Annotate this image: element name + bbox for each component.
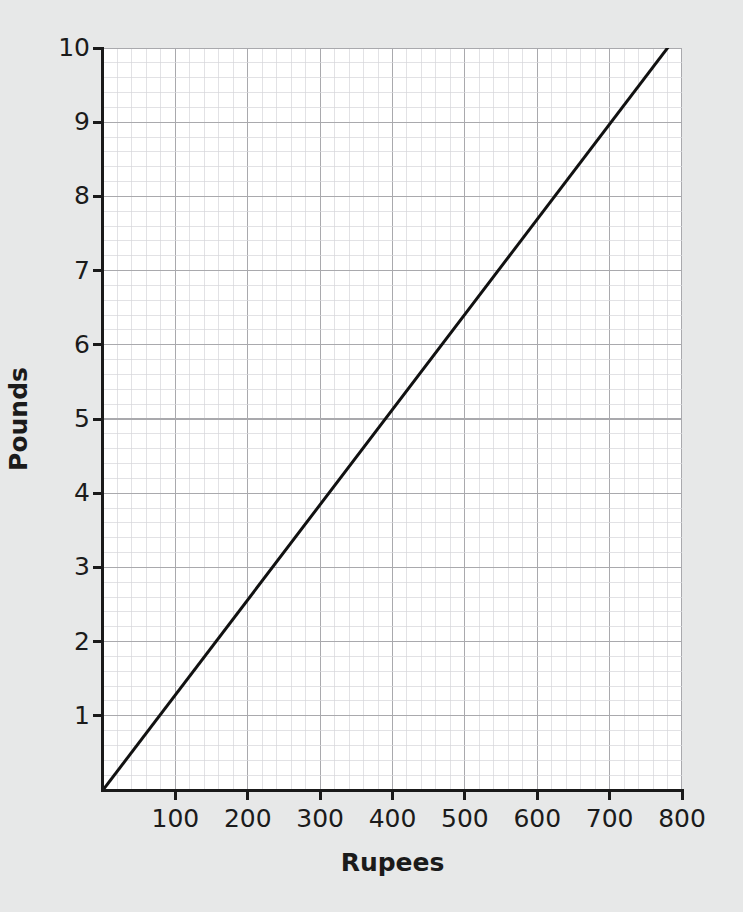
y-tick-label-9: 9	[44, 109, 90, 134]
y-tick-3	[93, 566, 102, 569]
x-tick-100	[174, 791, 177, 800]
y-tick-4	[93, 492, 102, 495]
x-axis-title: Rupees	[103, 848, 682, 877]
y-tick-label-4: 4	[44, 480, 90, 505]
x-tick-500	[463, 791, 466, 800]
y-tick-label-5: 5	[44, 406, 90, 431]
y-tick-label-7: 7	[44, 258, 90, 283]
y-tick-label-10: 10	[44, 35, 90, 60]
x-tick-400	[391, 791, 394, 800]
y-tick-7	[93, 269, 102, 272]
chart-canvas: 12345678910 100200300400500600700800 Rup…	[0, 0, 743, 912]
x-tick-300	[319, 791, 322, 800]
data-line-series	[103, 48, 682, 790]
plot-area	[103, 48, 682, 790]
y-tick-label-3: 3	[44, 554, 90, 579]
x-tick-label-800: 800	[637, 806, 727, 831]
y-tick-label-1: 1	[44, 703, 90, 728]
y-tick-label-8: 8	[44, 183, 90, 208]
y-tick-2	[93, 640, 102, 643]
y-tick-label-2: 2	[44, 629, 90, 654]
x-tick-800	[681, 791, 684, 800]
x-tick-600	[536, 791, 539, 800]
y-tick-6	[93, 343, 102, 346]
x-tick-700	[608, 791, 611, 800]
y-tick-9	[93, 121, 102, 124]
y-tick-8	[93, 195, 102, 198]
y-axis-title: Pounds	[4, 367, 33, 471]
y-tick-1	[93, 714, 102, 717]
y-tick-10	[93, 47, 102, 50]
y-tick-label-6: 6	[44, 332, 90, 357]
y-tick-5	[93, 418, 102, 421]
x-tick-200	[246, 791, 249, 800]
